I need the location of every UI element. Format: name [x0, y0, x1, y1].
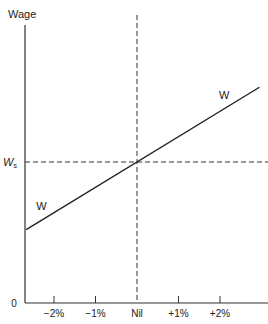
wage-chart: Wage0−2%−1%Nil+1%+2% Ws WW [0, 0, 268, 324]
x-tick-label: +2% [210, 308, 230, 319]
series-group [26, 87, 259, 229]
y-axis-title: Wage [8, 8, 36, 20]
ws-label-subscript: s [13, 162, 17, 169]
series-label: W [219, 89, 230, 101]
x-tick-label: −2% [44, 308, 64, 319]
x-tick-label: +1% [168, 308, 188, 319]
ws-label: Ws [3, 156, 17, 169]
axes: Wage0−2%−1%Nil+1%+2% [8, 8, 268, 319]
reference-lines: Ws [3, 15, 268, 303]
x-tick-label: Nil [131, 308, 143, 319]
series-label: W [36, 200, 47, 212]
x-tick-label: −1% [85, 308, 105, 319]
series-line-w [26, 87, 259, 229]
labels-group: WW [36, 89, 230, 212]
origin-label: 0 [11, 298, 17, 309]
